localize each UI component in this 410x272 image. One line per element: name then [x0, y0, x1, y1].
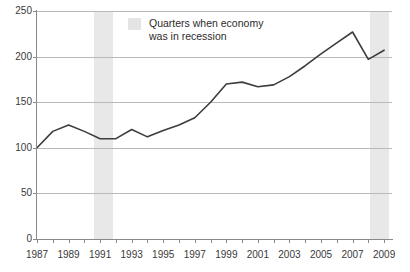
y-tick-label-100: 100	[0, 143, 32, 153]
x-axis-line	[36, 239, 393, 240]
x-tick-mark-1996	[179, 239, 180, 243]
x-tick-mark-2005	[321, 239, 322, 243]
x-tick-mark-2007	[353, 239, 354, 243]
x-tick-mark-1992	[116, 239, 117, 243]
x-tick-mark-2006	[337, 239, 338, 243]
x-tick-mark-2000	[242, 239, 243, 243]
x-tick-mark-1995	[163, 239, 164, 243]
x-tick-mark-1990	[84, 239, 85, 243]
x-tick-mark-1991	[100, 239, 101, 243]
y-tick-label-250: 250	[0, 6, 32, 16]
x-tick-mark-1997	[195, 239, 196, 243]
x-tick-mark-2004	[305, 239, 306, 243]
y-tick-label-200: 200	[0, 52, 32, 62]
line-series-layer	[37, 11, 392, 239]
x-tick-mark-1987	[37, 239, 38, 243]
plot-area	[37, 11, 392, 239]
x-tick-mark-2002	[274, 239, 275, 243]
x-tick-mark-2008	[368, 239, 369, 243]
x-tick-mark-1993	[132, 239, 133, 243]
y-tick-mark-250	[33, 11, 37, 12]
x-tick-mark-2003	[289, 239, 290, 243]
legend-swatch-recession	[128, 18, 141, 30]
y-axis-line	[36, 10, 37, 240]
y-tick-mark-200	[33, 57, 37, 58]
y-tick-label-50: 50	[0, 188, 32, 198]
line-series-1	[37, 32, 384, 148]
x-tick-mark-1994	[147, 239, 148, 243]
x-tick-mark-1998	[211, 239, 212, 243]
chart-container: 050100150200250 198719891991199319951997…	[0, 0, 410, 272]
legend: Quarters when economy was in recession	[128, 17, 263, 42]
x-tick-mark-1989	[69, 239, 70, 243]
x-tick-mark-1999	[226, 239, 227, 243]
x-tick-label-2009: 2009	[364, 249, 404, 260]
y-tick-mark-150	[33, 102, 37, 103]
legend-label-recession: Quarters when economy was in recession	[149, 17, 263, 42]
y-tick-label-0: 0	[0, 234, 32, 244]
y-tick-label-150: 150	[0, 97, 32, 107]
x-tick-mark-2009	[384, 239, 385, 243]
x-tick-mark-1988	[53, 239, 54, 243]
x-tick-mark-2001	[258, 239, 259, 243]
y-tick-mark-50	[33, 193, 37, 194]
y-tick-mark-100	[33, 148, 37, 149]
